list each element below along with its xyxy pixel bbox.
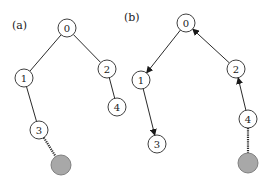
node-label-0: 0: [183, 18, 189, 29]
panel-a-label: (a): [12, 19, 27, 32]
panel-b-edges: [143, 29, 248, 153]
node-label-2: 2: [233, 64, 239, 75]
node-label-0: 0: [64, 23, 70, 34]
node-label-4: 4: [114, 102, 120, 113]
diagram-svg: (a) (b) 01234 01234: [0, 0, 274, 187]
filled-node: [51, 155, 71, 175]
edge-3-g: [44, 138, 56, 157]
tree-diagram: (a) (b) 01234 01234: [0, 0, 274, 187]
edge-2-4: [109, 78, 114, 99]
edge-2-0: [193, 29, 230, 63]
node-label-1: 1: [138, 75, 144, 86]
node-label-3: 3: [36, 125, 42, 136]
edge-4-2: [238, 78, 246, 110]
panel-a-nodes: 01234: [15, 19, 126, 175]
node-label-4: 4: [245, 114, 251, 125]
node-label-1: 1: [21, 73, 27, 84]
filled-node: [238, 153, 258, 173]
panel-b-nodes: 01234: [132, 14, 258, 173]
edge-0-2: [73, 34, 100, 62]
edge-1-3: [26, 87, 36, 122]
panel-b-label: (b): [124, 11, 140, 24]
node-label-2: 2: [104, 64, 110, 75]
edge-0-1: [147, 30, 181, 73]
node-label-3: 3: [154, 139, 160, 150]
edge-1-3: [143, 89, 155, 136]
edge-0-1: [30, 35, 61, 71]
